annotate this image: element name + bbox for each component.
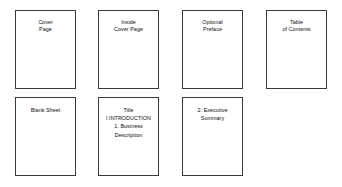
- page-box-table-of-contents: Table of Contents: [266, 10, 327, 89]
- page-label-blank-sheet: Blank Sheet: [16, 107, 75, 114]
- page-box-cover-page: Cover Page: [15, 10, 76, 89]
- page-label-optional-preface: Optional Preface: [183, 19, 242, 34]
- page-label-inside-cover-page: Inside Cover Page: [99, 19, 158, 34]
- page-box-inside-cover-page: Inside Cover Page: [98, 10, 159, 89]
- page-box-optional-preface: Optional Preface: [182, 10, 243, 89]
- page-box-executive-summary: 2. Executive Summary: [182, 97, 243, 176]
- page-label-executive-summary: 2. Executive Summary: [183, 107, 242, 123]
- page-box-blank-sheet: Blank Sheet: [15, 97, 76, 176]
- page-label-cover-page: Cover Page: [16, 19, 75, 34]
- page-label-table-of-contents: Table of Contents: [267, 19, 326, 34]
- document-structure-diagram: Cover Page Inside Cover Page Optional Pr…: [0, 0, 342, 187]
- page-label-title-introduction: Title I.INTRODUCTION 1. Business Descrip…: [99, 106, 158, 139]
- page-box-title-introduction: Title I.INTRODUCTION 1. Business Descrip…: [98, 97, 159, 176]
